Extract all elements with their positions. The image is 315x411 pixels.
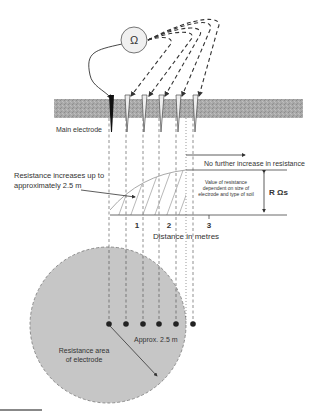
no-increase-label: No further increase in resistance — [204, 160, 305, 167]
resistance-increases-label-1: Resistance increases up to — [14, 171, 104, 180]
value-note-3: electrode and type of soil — [198, 191, 254, 197]
r-label: R Ωs — [269, 188, 288, 197]
x-axis-title: Distance in metres — [153, 232, 219, 241]
meter-wires-test — [131, 19, 219, 96]
tick-label-1: 1 — [135, 221, 140, 230]
tick-label-3: 3 — [207, 221, 212, 230]
resistance-increases-label-2: approximately 2.5 m — [14, 181, 82, 190]
ohm-symbol: Ω — [130, 34, 138, 46]
tick-label-2: 2 — [167, 221, 172, 230]
area-label-1: Resistance area — [59, 347, 110, 354]
area-label-2: of electrode — [66, 356, 103, 363]
resistance-curve — [110, 170, 186, 210]
main-electrode-label: Main electrode — [56, 126, 102, 133]
ohm-meter: Ω — [121, 27, 147, 53]
earth-electrode-resistance-diagram: Ω Main electrode No further increase in … — [0, 0, 315, 411]
approx-radius-label: Approx. 2.5 m — [134, 336, 178, 344]
meter-wire-main — [89, 44, 122, 98]
